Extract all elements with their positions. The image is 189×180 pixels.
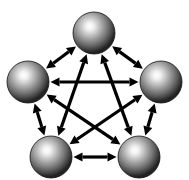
edge-left-to-top [46, 46, 76, 68]
node-left[interactable] [7, 61, 49, 103]
edge-top-to-bottom-left [57, 54, 88, 135]
edge-top-to-bottom-right [100, 54, 132, 136]
edge-right-to-bottom-left [70, 95, 143, 145]
sphere-icon[interactable] [140, 61, 182, 103]
arrowhead-icon [143, 125, 152, 135]
graph-svg [0, 0, 189, 180]
node-right[interactable] [140, 61, 182, 103]
node-layer [7, 12, 182, 178]
sphere-icon[interactable] [30, 136, 72, 178]
arrowhead-icon [74, 152, 83, 161]
sphere-icon[interactable] [7, 61, 49, 103]
edge-right-to-left [51, 77, 139, 86]
edge-top-to-right [112, 46, 143, 68]
edge-right-to-bottom-right [143, 104, 156, 136]
arrowhead-icon [108, 152, 117, 161]
edge-bottom-left-to-left [33, 104, 46, 136]
node-bottom-left[interactable] [30, 136, 72, 178]
sphere-icon[interactable] [73, 12, 115, 54]
edge-bottom-right-to-bottom-left [74, 152, 117, 161]
sphere-icon[interactable] [118, 136, 160, 178]
diagram-canvas: Complete graph K5 with bidirectional lin… [0, 0, 189, 180]
arrowhead-icon [51, 77, 60, 86]
arrowhead-icon [37, 126, 46, 136]
arrowhead-icon [148, 104, 157, 114]
node-top[interactable] [73, 12, 115, 54]
node-bottom-right[interactable] [118, 136, 160, 178]
arrowhead-icon [33, 104, 42, 114]
arrowhead-icon [130, 77, 139, 86]
